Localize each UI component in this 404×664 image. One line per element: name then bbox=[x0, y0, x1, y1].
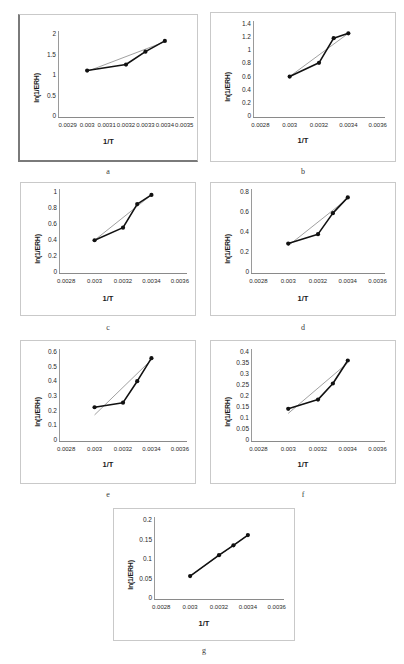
y-tick-f-6: 0.3 bbox=[240, 370, 249, 377]
x-tick-d-2: 0.0032 bbox=[309, 278, 327, 284]
y-tick-c-2: 0.4 bbox=[48, 236, 57, 243]
chart-panel-e: ln(1/ERH) 00.10.20.30.40.50.6 0.00280.00… bbox=[20, 340, 196, 484]
x-axis-label-a: 1/T bbox=[20, 137, 197, 146]
series-area-b bbox=[253, 21, 385, 117]
data-point-g-3 bbox=[246, 533, 250, 537]
y-tick-g-4: 0.2 bbox=[143, 516, 152, 523]
data-point-b-0 bbox=[288, 74, 292, 78]
x-tick-d-4: 0.0036 bbox=[368, 278, 386, 284]
data-point-e-2 bbox=[135, 379, 139, 383]
x-tick-a-0: 0.0029 bbox=[59, 122, 77, 128]
y-tick-f-1: 0.05 bbox=[236, 425, 249, 432]
x-axis-label-d: 1/T bbox=[211, 294, 395, 303]
x-tick-g-1: 0.003 bbox=[183, 604, 198, 610]
plot-b: ln(1/ERH) 00.20.40.60.811.21.4 0.00280.0… bbox=[211, 13, 395, 161]
y-tick-a-1: 0.5 bbox=[47, 91, 56, 98]
data-point-g-0 bbox=[188, 574, 192, 578]
x-tick-d-1: 0.003 bbox=[281, 278, 296, 284]
trend-line-c bbox=[95, 195, 152, 240]
chart-panel-a: ln(1/ERH) 00.511.52 0.00290.0030.00310.0… bbox=[18, 14, 198, 162]
series-area-a bbox=[58, 31, 194, 117]
x-tick-d-0: 0.0028 bbox=[249, 278, 267, 284]
data-point-b-2 bbox=[332, 36, 336, 40]
y-tick-f-8: 0.4 bbox=[240, 348, 249, 355]
figure-caption-d: d bbox=[210, 323, 396, 332]
x-tick-a-5: 0.0034 bbox=[156, 122, 174, 128]
x-axis-line-b bbox=[253, 117, 385, 118]
x-tick-g-4: 0.0036 bbox=[268, 604, 286, 610]
chart-panel-g: ln(1/ERH) 00.050.10.150.2 0.00280.0030.0… bbox=[113, 508, 295, 641]
x-axis-line-c bbox=[59, 273, 187, 274]
trend-line-b bbox=[290, 33, 349, 76]
y-tick-g-2: 0.1 bbox=[143, 555, 152, 562]
data-point-b-3 bbox=[346, 31, 350, 35]
data-point-e-3 bbox=[149, 356, 153, 360]
x-tick-f-1: 0.003 bbox=[281, 446, 296, 452]
data-point-c-2 bbox=[135, 202, 139, 206]
trend-line-d bbox=[288, 198, 348, 245]
y-tick-a-3: 1.5 bbox=[47, 50, 56, 57]
y-tick-c-4: 0.8 bbox=[48, 204, 57, 211]
y-tick-labels-f: 00.050.10.150.20.250.30.350.4 bbox=[223, 351, 249, 439]
trend-line-a bbox=[87, 42, 165, 72]
x-tick-g-2: 0.0032 bbox=[210, 604, 228, 610]
data-point-a-0 bbox=[85, 68, 89, 72]
y-tick-d-1: 0.2 bbox=[240, 248, 249, 255]
x-axis-label-e: 1/T bbox=[21, 460, 195, 469]
data-point-d-1 bbox=[316, 232, 320, 236]
data-point-c-1 bbox=[121, 226, 125, 230]
x-tick-labels-f: 0.00280.0030.00320.00340.0036 bbox=[251, 446, 385, 458]
series-svg-f bbox=[251, 349, 385, 441]
data-point-f-1 bbox=[316, 398, 320, 402]
plot-f: ln(1/ERH) 00.050.10.150.20.250.30.350.4 … bbox=[211, 341, 395, 483]
x-tick-e-4: 0.0036 bbox=[171, 446, 189, 452]
y-tick-g-1: 0.05 bbox=[139, 574, 152, 581]
x-tick-f-3: 0.0034 bbox=[339, 446, 357, 452]
y-tick-d-2: 0.4 bbox=[240, 228, 249, 235]
data-point-g-1 bbox=[217, 553, 221, 557]
data-point-e-0 bbox=[92, 405, 96, 409]
figure-caption-b: b bbox=[210, 167, 396, 176]
y-tick-a-2: 1 bbox=[52, 71, 56, 78]
y-tick-g-0: 0 bbox=[148, 594, 152, 601]
x-tick-g-3: 0.0034 bbox=[239, 604, 257, 610]
chart-panel-d: ln(1/ERH) 00.20.40.60.8 0.00280.0030.003… bbox=[210, 182, 396, 316]
x-tick-d-3: 0.0034 bbox=[339, 278, 357, 284]
plot-g: ln(1/ERH) 00.050.10.150.2 0.00280.0030.0… bbox=[114, 509, 294, 640]
y-tick-e-4: 0.4 bbox=[48, 377, 57, 384]
x-tick-f-2: 0.0032 bbox=[309, 446, 327, 452]
data-point-f-3 bbox=[346, 358, 350, 362]
y-tick-e-2: 0.2 bbox=[48, 406, 57, 413]
y-tick-e-5: 0.5 bbox=[48, 362, 57, 369]
series-svg-b bbox=[253, 21, 385, 117]
x-tick-c-4: 0.0036 bbox=[171, 278, 189, 284]
data-point-d-0 bbox=[286, 242, 290, 246]
y-tick-a-0: 0 bbox=[52, 112, 56, 119]
data-point-f-2 bbox=[331, 381, 335, 385]
x-tick-a-4: 0.0033 bbox=[136, 122, 154, 128]
y-tick-labels-c: 00.20.40.60.81 bbox=[31, 191, 57, 271]
data-point-a-2 bbox=[143, 50, 147, 54]
x-tick-c-0: 0.0028 bbox=[57, 278, 75, 284]
x-tick-a-6: 0.0035 bbox=[175, 122, 193, 128]
series-svg-d bbox=[251, 189, 385, 273]
data-markers-f bbox=[286, 358, 350, 411]
series-svg-c bbox=[59, 189, 187, 273]
x-tick-e-0: 0.0028 bbox=[57, 446, 75, 452]
x-tick-b-0: 0.0028 bbox=[251, 122, 269, 128]
x-axis-label-c: 1/T bbox=[21, 294, 195, 303]
data-line-d bbox=[288, 197, 348, 243]
x-tick-a-3: 0.0032 bbox=[117, 122, 135, 128]
series-area-e bbox=[59, 349, 187, 441]
y-tick-b-6: 1.2 bbox=[242, 33, 251, 40]
y-tick-labels-e: 00.10.20.30.40.50.6 bbox=[31, 351, 57, 439]
chart-panel-b: ln(1/ERH) 00.20.40.60.811.21.4 0.00280.0… bbox=[210, 12, 396, 162]
chart-panel-f: ln(1/ERH) 00.050.10.150.20.250.30.350.4 … bbox=[210, 340, 396, 484]
y-tick-b-0: 0 bbox=[247, 112, 251, 119]
y-tick-d-0: 0 bbox=[245, 268, 249, 275]
x-axis-label-g: 1/T bbox=[114, 619, 294, 628]
x-tick-c-1: 0.003 bbox=[87, 278, 102, 284]
figure-caption-c: c bbox=[20, 323, 196, 332]
x-tick-g-0: 0.0028 bbox=[152, 604, 170, 610]
x-tick-a-2: 0.0031 bbox=[97, 122, 115, 128]
